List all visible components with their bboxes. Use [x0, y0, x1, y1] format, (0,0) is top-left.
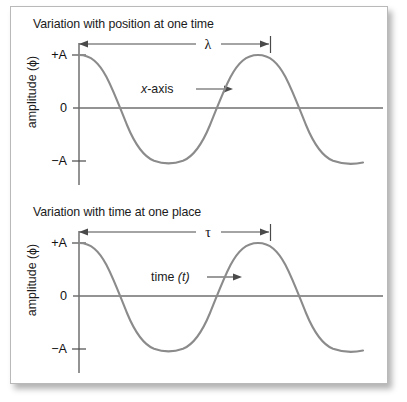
period-arrow-left-icon: [79, 229, 88, 236]
figure-root: Variation with position at one time ampl…: [0, 0, 407, 402]
time-axis-note-arrow-icon: [233, 274, 242, 281]
period-dimension-group: τ: [79, 224, 271, 241]
time-panel: Variation with time at one place amplitu…: [11, 197, 389, 383]
position-wave-curve: [79, 55, 363, 164]
time-axis-note-group: time (t): [151, 270, 242, 284]
position-axis-note-label: x-axis: [140, 82, 173, 96]
position-ylabel-minusA: −A: [51, 154, 67, 168]
wavelength-symbol-label: λ: [205, 37, 212, 52]
position-panel: Variation with position at one time ampl…: [11, 9, 389, 197]
figure-card: Variation with position at one time ampl…: [10, 6, 388, 384]
period-symbol-label: τ: [205, 225, 211, 240]
position-axis-note-group: x-axis: [140, 82, 233, 96]
wavelength-dimension-group: λ: [79, 36, 271, 53]
time-wave-curve: [79, 243, 363, 352]
wavelength-arrow-right-icon: [260, 41, 269, 48]
position-ylabel-plusA: +A: [51, 48, 67, 62]
time-ylabel-zero: 0: [60, 289, 67, 303]
period-arrow-right-icon: [260, 229, 269, 236]
time-wave-plot: τ +A 0 −A time (t): [11, 197, 389, 385]
time-axis-note-label: time (t): [151, 270, 190, 284]
time-ylabel-plusA: +A: [51, 236, 67, 250]
wavelength-arrow-left-icon: [79, 41, 88, 48]
time-ylabel-minusA: −A: [51, 342, 67, 356]
position-wave-plot: λ +A 0 −A x-axis: [11, 9, 389, 197]
position-ylabel-zero: 0: [60, 101, 67, 115]
